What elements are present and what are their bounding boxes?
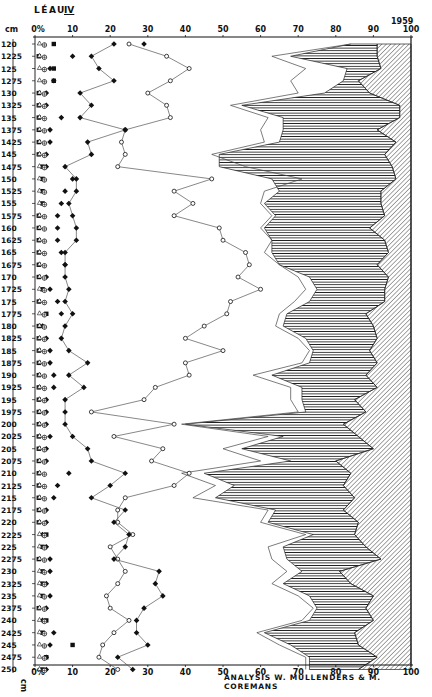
x-tick-bottom: 30 bbox=[142, 668, 154, 677]
open-circle-marker bbox=[108, 606, 112, 610]
depth-label: 175 bbox=[1, 298, 17, 307]
depth-label: 125 bbox=[1, 65, 17, 74]
depth-label: 2075 bbox=[1, 457, 22, 466]
depth-label: 1525 bbox=[1, 187, 22, 196]
filled-diamond-marker bbox=[62, 299, 68, 305]
x-tick-top: 80 bbox=[330, 25, 342, 34]
open-circle-marker bbox=[229, 300, 233, 304]
x-tick-bottom: 90 bbox=[368, 668, 380, 677]
filled-diamond-marker bbox=[70, 311, 76, 317]
depth-label: 135 bbox=[1, 114, 17, 123]
depth-label: 250 bbox=[1, 665, 17, 674]
open-circle-marker bbox=[172, 189, 176, 193]
filled-diamond-marker bbox=[156, 569, 162, 575]
depth-label: 1225 bbox=[1, 52, 22, 61]
filled-diamond-inner-marker bbox=[66, 470, 72, 476]
filled-diamond-inner-marker bbox=[47, 127, 53, 133]
filled-diamond-marker bbox=[74, 188, 80, 194]
open-circle-marker bbox=[123, 569, 127, 573]
depth-label: 2275 bbox=[1, 555, 22, 564]
filled-diamond-marker bbox=[62, 274, 68, 280]
depth-label: 200 bbox=[1, 420, 17, 429]
filled-diamond-inner-marker bbox=[59, 311, 65, 317]
filled-diamond-inner-marker bbox=[59, 115, 65, 121]
filled-diamond-inner-marker bbox=[47, 556, 53, 562]
open-circle-marker bbox=[127, 42, 131, 46]
depth-label: 120 bbox=[1, 40, 17, 49]
depth-label: 1575 bbox=[1, 212, 22, 221]
open-circle-marker bbox=[119, 140, 123, 144]
open-circle-marker bbox=[89, 410, 93, 414]
depth-label: 190 bbox=[1, 371, 17, 380]
filled-diamond-marker bbox=[66, 286, 72, 292]
depth-label: 155 bbox=[1, 199, 17, 208]
open-circle-marker bbox=[101, 643, 105, 647]
depth-label: 245 bbox=[1, 641, 17, 650]
open-circle-marker bbox=[112, 631, 116, 635]
open-circle-marker bbox=[221, 238, 225, 242]
filled-diamond-marker bbox=[85, 360, 91, 366]
open-circle-marker bbox=[146, 91, 150, 95]
filled-diamond-marker bbox=[70, 213, 76, 219]
filled-diamond-inner-marker bbox=[141, 41, 147, 47]
filled-diamond-marker bbox=[74, 225, 80, 231]
open-circle-marker bbox=[112, 434, 116, 438]
x-tick-top: 60 bbox=[255, 25, 267, 34]
open-circle-marker bbox=[202, 324, 206, 328]
open-circle-line bbox=[91, 44, 260, 669]
open-circle-marker bbox=[247, 263, 251, 267]
open-circle-marker bbox=[165, 103, 169, 107]
filled-diamond-inner-marker bbox=[47, 569, 53, 575]
depth-label: 215 bbox=[1, 494, 17, 503]
triangle-marker bbox=[37, 654, 41, 658]
depth-label: 145 bbox=[1, 150, 17, 159]
x-tick-bottom: 20 bbox=[105, 668, 117, 677]
x-tick-top: 50 bbox=[217, 25, 229, 34]
filled-diamond-marker bbox=[134, 618, 140, 624]
open-circle-marker bbox=[172, 422, 176, 426]
filled-diamond-marker bbox=[62, 323, 68, 329]
open-circle-marker bbox=[236, 275, 240, 279]
open-circle-marker bbox=[187, 471, 191, 475]
depth-label: 1675 bbox=[1, 261, 22, 270]
depth-label: 150 bbox=[1, 175, 17, 184]
filled-diamond-inner-marker bbox=[62, 188, 68, 194]
open-circle-marker bbox=[244, 250, 248, 254]
filled-diamond-inner-marker bbox=[47, 348, 53, 354]
filled-diamond-inner-marker bbox=[51, 495, 57, 501]
depth-label: 180 bbox=[1, 322, 17, 331]
filled-diamond-inner-marker bbox=[47, 139, 53, 145]
filled-square-marker bbox=[52, 66, 56, 70]
depth-label: 2225 bbox=[1, 531, 22, 540]
open-circle-marker bbox=[97, 655, 101, 659]
open-circle-marker bbox=[191, 201, 195, 205]
triangle-marker bbox=[37, 642, 41, 646]
open-circle-marker bbox=[172, 214, 176, 218]
depth-label: 1925 bbox=[1, 383, 22, 392]
x-tick-bottom: 60 bbox=[255, 668, 267, 677]
filled-diamond-inner-marker bbox=[47, 642, 53, 648]
open-circle-marker bbox=[187, 67, 191, 71]
open-circle-marker bbox=[168, 79, 172, 83]
x-tick-top: 20 bbox=[105, 25, 117, 34]
filled-diamond-inner-marker bbox=[55, 483, 61, 489]
open-circle-marker bbox=[123, 152, 127, 156]
pollen-diagram: 0%1020304050607080901000%102030405060708… bbox=[0, 0, 432, 697]
open-circle-marker bbox=[108, 545, 112, 549]
filled-diamond-marker bbox=[66, 201, 72, 207]
filled-diamond-inner-marker bbox=[59, 250, 65, 256]
open-circle-marker bbox=[259, 287, 263, 291]
triangle-marker bbox=[37, 311, 41, 315]
open-circle-marker bbox=[210, 177, 214, 181]
x-tick-bottom: 100 bbox=[403, 668, 420, 677]
triangle-marker bbox=[37, 41, 41, 45]
depth-label: 205 bbox=[1, 445, 17, 454]
depth-label: 2375 bbox=[1, 604, 22, 613]
depth-label: 240 bbox=[1, 616, 17, 625]
open-circle-marker bbox=[183, 336, 187, 340]
depth-label: 1975 bbox=[1, 408, 22, 417]
data-series bbox=[37, 41, 263, 673]
filled-diamond-inner-marker bbox=[47, 434, 53, 440]
filled-diamond-inner-marker bbox=[55, 213, 61, 219]
open-circle-marker bbox=[116, 667, 120, 671]
